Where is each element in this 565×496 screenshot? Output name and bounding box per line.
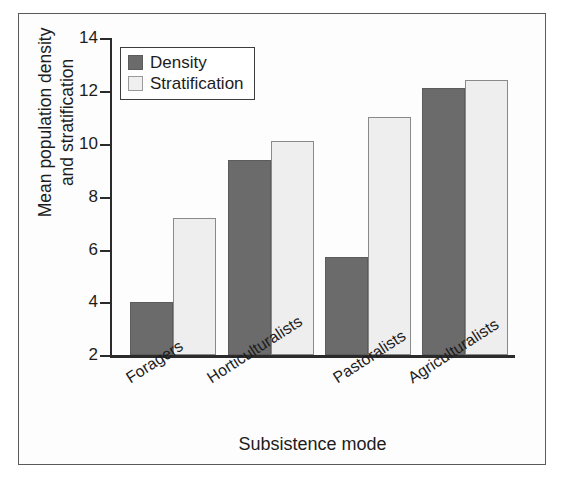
legend-entry-density: Density	[128, 52, 244, 73]
y-tick-10	[100, 144, 110, 146]
bar-stratification-foragers	[173, 218, 216, 355]
legend-label-stratification: Stratification	[150, 75, 244, 92]
y-axis-line	[110, 38, 112, 357]
y-tick-label-4: 4	[68, 292, 98, 312]
bar-stratification-agriculturalists	[465, 80, 508, 355]
bar-density-horticulturalists	[228, 160, 271, 355]
y-tick-14	[100, 38, 110, 40]
legend-swatch-density-icon	[128, 55, 143, 70]
y-tick-label-2: 2	[68, 345, 98, 365]
chart-legend: Density Stratification	[120, 47, 255, 100]
caption-remnant	[22, 482, 542, 491]
y-tick-8	[100, 197, 110, 199]
y-axis-title: Mean population density and stratificati…	[34, 0, 79, 247]
bar-density-agriculturalists	[422, 88, 465, 355]
y-axis-title-line2: and stratification	[56, 0, 78, 247]
bar-density-pastoralists	[325, 257, 368, 355]
y-axis-title-line1: Mean population density	[34, 0, 56, 247]
bar-chart: 14 12 10 8 6 4 2 Density Stratification …	[0, 0, 565, 496]
legend-entry-stratification: Stratification	[128, 73, 244, 94]
bar-stratification-pastoralists	[368, 117, 411, 355]
legend-swatch-stratification-icon	[128, 76, 143, 91]
x-axis-title: Subsistence mode	[110, 434, 515, 455]
legend-label-density: Density	[150, 54, 207, 71]
y-tick-12	[100, 91, 110, 93]
y-tick-6	[100, 250, 110, 252]
y-tick-2	[100, 355, 110, 357]
y-tick-4	[100, 302, 110, 304]
